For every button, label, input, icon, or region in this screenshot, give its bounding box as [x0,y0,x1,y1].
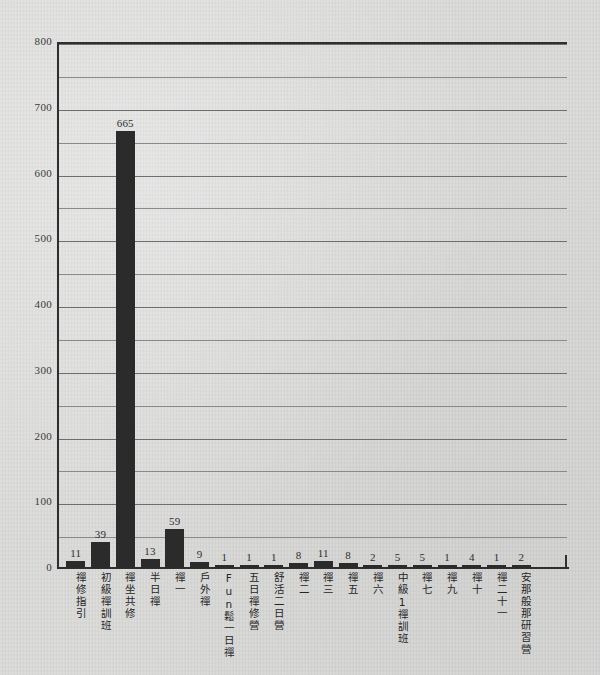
bar [116,131,135,568]
x-axis-label-slot: 初級禪訓班 [91,572,110,632]
bar-value-label: 11 [70,547,81,559]
bar-column: 5 [413,42,432,568]
y-axis-tick-label: 700 [6,101,52,113]
x-axis-category-label: 戶外禪 [190,572,209,608]
bar [141,559,160,568]
bar-value-label: 1 [494,551,500,563]
x-axis-category-label: 禪二 [289,572,308,596]
x-axis-label-slot: 半日禪 [141,572,160,608]
bar-column: 665 [116,42,135,568]
bar [413,565,432,568]
x-axis-label-slot: 禪坐共修 [116,572,135,620]
bar-value-label: 5 [395,551,401,563]
bar-value-label: 1 [221,551,227,563]
y-axis-tick-label: 500 [6,232,52,244]
bar [91,542,110,568]
bar [388,565,407,568]
x-axis-category-label: 禪二十一 [487,572,506,620]
y-axis-tick-label: 600 [6,167,52,179]
bar-column: 59 [165,42,184,568]
bar-value-label: 1 [246,551,252,563]
bar-value-label: 2 [519,551,525,563]
x-axis-category-label: 禪修指引 [66,572,85,620]
bar-column: 1 [215,42,234,568]
x-axis-label-slot: 中級1禪訓班 [388,572,407,645]
bar-value-label: 39 [95,528,106,540]
bar [487,565,506,568]
bar-value-label: 11 [318,547,329,559]
bar [462,565,481,568]
bar-value-label: 13 [144,545,155,557]
bar [240,565,259,568]
x-axis-label-slot: 禪十 [462,572,481,596]
bar-chart: 0100200300400500600700800 11396651359911… [0,0,600,675]
x-axis-category-labels: 禪修指引初級禪訓班禪坐共修半日禪禪一戶外禪Fun鬆一日禪五日禪修營舒活二日營禪二… [57,572,567,672]
x-axis-label-slot: 禪九 [438,572,457,596]
x-axis-category-label: 五日禪修營 [240,572,259,632]
bar-column: 1 [487,42,506,568]
x-axis-category-label: 禪十 [462,572,481,596]
x-axis-label-slot: 禪五 [339,572,358,596]
bar-value-label: 1 [444,551,450,563]
bar-column: 8 [289,42,308,568]
x-axis-category-label: 禪五 [339,572,358,596]
bar-column: 1 [264,42,283,568]
y-axis-tick-label: 0 [6,561,52,573]
x-axis-category-label: 禪七 [413,572,432,596]
bar [314,561,333,568]
bar-column: 1 [240,42,259,568]
x-axis-label-slot: 禪七 [413,572,432,596]
bar-column: 8 [339,42,358,568]
x-axis-label-slot: 禪六 [363,572,382,596]
x-axis-label-slot: Fun鬆一日禪 [215,572,234,659]
bar-value-label: 2 [370,551,376,563]
x-axis-category-label: 禪三 [314,572,333,596]
bar-column: 39 [91,42,110,568]
x-axis-category-label: 半日禪 [141,572,160,608]
bar-column: 5 [388,42,407,568]
bar-value-label: 5 [419,551,425,563]
x-axis-category-label: 禪九 [438,572,457,596]
bar-column: 13 [141,42,160,568]
y-axis-tick-label: 100 [6,495,52,507]
bar-column: 2 [512,42,531,568]
x-axis-category-label: 禪六 [363,572,382,596]
x-axis-label-slot: 禪三 [314,572,333,596]
x-axis-category-label: 舒活二日營 [264,572,283,632]
bar-value-label: 4 [469,551,475,563]
x-axis-category-label: 禪坐共修 [116,572,135,620]
bar [363,565,382,568]
y-axis-tick-label: 800 [6,35,52,47]
y-axis-tick-label: 200 [6,430,52,442]
bar-value-label: 1 [271,551,277,563]
x-axis-category-label: 初級禪訓班 [91,572,110,632]
bar-column: 2 [363,42,382,568]
x-axis-label-slot: 禪二 [289,572,308,596]
bar-column: 1 [438,42,457,568]
x-axis-label-slot: 禪修指引 [66,572,85,620]
bar [190,562,209,568]
x-axis-label-slot: 禪一 [165,572,184,596]
bar-series: 11396651359911181182551412 [57,42,567,568]
bar [512,565,531,568]
x-axis-category-label: 禪一 [165,572,184,596]
bar [289,563,308,568]
bar-value-label: 59 [169,515,180,527]
y-axis-tick-labels: 0100200300400500600700800 [0,0,52,675]
bar [438,565,457,568]
x-axis-label-slot: 舒活二日營 [264,572,283,632]
x-axis-label-slot: 戶外禪 [190,572,209,608]
x-axis-category-label: 中級1禪訓班 [388,572,407,645]
bar [339,563,358,568]
x-axis-category-label: 安那般那研習營 [512,572,531,656]
bar-column: 4 [462,42,481,568]
bar [215,565,234,568]
bar-value-label: 8 [296,549,302,561]
bar [165,529,184,568]
y-axis-tick-label: 400 [6,298,52,310]
bar-value-label: 8 [345,549,351,561]
x-axis-label-slot: 安那般那研習營 [512,572,531,656]
scanned-chart-page: 0100200300400500600700800 11396651359911… [0,0,600,675]
y-axis-tick-label: 300 [6,364,52,376]
bar-value-label: 9 [197,548,203,560]
